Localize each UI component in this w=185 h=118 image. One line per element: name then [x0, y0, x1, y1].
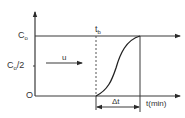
tb-label: tb — [95, 25, 101, 35]
velocity-label: u — [62, 54, 66, 62]
delta-t-label: Δt — [112, 98, 120, 106]
x-axis-label: t(min) — [146, 100, 166, 108]
zero-label: O — [26, 91, 33, 100]
breakthrough-curve — [96, 36, 140, 96]
half-c0-label: Co/2 — [7, 61, 24, 71]
c0-label: Co — [18, 31, 28, 41]
